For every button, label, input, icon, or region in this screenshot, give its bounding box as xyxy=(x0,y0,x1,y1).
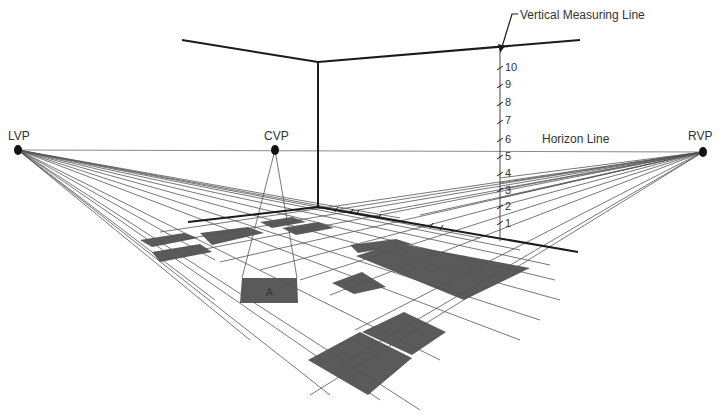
lvp-label: LVP xyxy=(8,129,30,143)
rvp-dot xyxy=(699,147,707,157)
floor-tiles xyxy=(140,217,530,395)
perspective-diagram: 1 2 3 4 5 6 7 8 9 10 Vertical Measuring … xyxy=(0,0,720,419)
lvp-dot xyxy=(14,145,22,155)
rvp-label: RVP xyxy=(688,129,712,143)
tick-label-3: 3 xyxy=(505,184,511,196)
tick-label-6: 6 xyxy=(505,133,511,145)
tick-label-5: 5 xyxy=(505,150,511,162)
arrowhead-icon xyxy=(498,44,505,53)
tick-label-4: 4 xyxy=(505,167,511,179)
tick-label-7: 7 xyxy=(505,114,511,126)
tick-label-1: 1 xyxy=(505,217,511,229)
tick-label-9: 9 xyxy=(505,78,511,90)
cvp-label: CVP xyxy=(264,129,289,143)
callout-arrow-icon xyxy=(502,14,518,47)
right-wall-top-edge xyxy=(318,40,580,62)
measuring-tick-labels: 1 2 3 4 5 6 7 8 9 10 xyxy=(505,61,517,229)
square-a-label: A xyxy=(266,287,273,298)
left-wall-top-edge xyxy=(182,40,318,62)
horizon-line-label: Horizon Line xyxy=(542,132,610,146)
tick-label-8: 8 xyxy=(505,96,511,108)
tick-label-2: 2 xyxy=(505,200,511,212)
vertical-measuring-line-label: Vertical Measuring Line xyxy=(520,8,645,22)
cvp-dot xyxy=(271,145,279,155)
tick-label-10: 10 xyxy=(505,61,517,73)
horizon-line xyxy=(18,150,703,152)
